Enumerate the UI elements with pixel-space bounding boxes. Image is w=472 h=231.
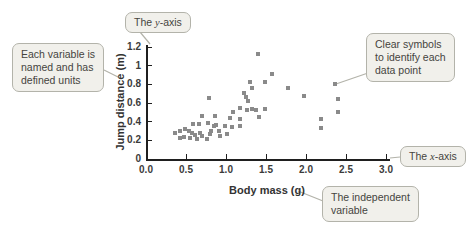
data-point xyxy=(188,136,192,140)
data-point xyxy=(250,86,254,90)
callout-each-variable-line1: Each variable is xyxy=(21,48,95,61)
x-tick-label: 0.5 xyxy=(174,164,198,175)
data-point xyxy=(206,121,210,125)
x-tick-label: 1.5 xyxy=(254,164,278,175)
callout-each-variable: Each variable is named and has defined u… xyxy=(12,43,104,92)
data-point xyxy=(225,132,229,136)
data-point xyxy=(178,129,182,133)
data-point xyxy=(178,136,182,140)
callout-clear-symbols-line1: Clear symbols xyxy=(375,38,446,51)
callout-clear-symbols: Clear symbols to identify each data poin… xyxy=(366,33,455,82)
x-axis-line xyxy=(146,159,390,161)
data-point xyxy=(191,122,195,126)
data-point xyxy=(223,124,227,128)
data-point xyxy=(263,107,267,111)
scatter-plot-figure: 0.00.51.01.52.02.53.000.20.40.60.811.2 J… xyxy=(0,0,472,231)
data-point xyxy=(218,134,222,138)
y-tick xyxy=(147,159,152,160)
data-point xyxy=(200,134,204,138)
callout-independent-line1: The independent xyxy=(331,191,410,204)
data-point xyxy=(248,80,252,84)
data-point xyxy=(254,108,258,112)
data-point xyxy=(173,131,177,135)
data-point xyxy=(217,129,221,133)
data-point xyxy=(213,114,217,118)
data-point xyxy=(209,129,213,133)
data-point xyxy=(238,106,242,110)
callout-y-axis-suffix: -axis xyxy=(160,16,182,28)
data-point xyxy=(302,94,306,98)
data-point xyxy=(238,117,242,121)
y-tick xyxy=(147,140,152,141)
data-point xyxy=(197,122,201,126)
data-point xyxy=(230,125,234,129)
data-point xyxy=(238,124,242,128)
y-tick xyxy=(147,84,152,85)
data-point xyxy=(333,82,337,86)
y-tick xyxy=(147,103,152,104)
data-point xyxy=(228,116,232,120)
callout-x-axis-suffix: -axis xyxy=(435,150,457,162)
callout-y-axis-text: The xyxy=(134,16,155,28)
data-point xyxy=(246,99,250,103)
x-tick-label: 1.0 xyxy=(214,164,238,175)
data-point xyxy=(245,108,249,112)
data-point xyxy=(256,52,260,56)
x-axis-title: Body mass (g) xyxy=(197,184,337,196)
data-point xyxy=(205,137,209,141)
x-tick-label: 2.5 xyxy=(334,164,358,175)
x-tick-label: 0.0 xyxy=(134,164,158,175)
x-tick xyxy=(306,154,307,159)
data-point xyxy=(214,123,218,127)
x-tick xyxy=(346,154,347,159)
data-point xyxy=(286,86,290,90)
leader-clear-symbols-callout xyxy=(336,73,368,84)
callout-independent-variable: The independent variable xyxy=(322,186,419,222)
callout-clear-symbols-line3: data point xyxy=(375,64,446,77)
x-tick xyxy=(266,154,267,159)
y-tick xyxy=(147,121,152,122)
leader-y-axis-callout xyxy=(140,32,150,44)
x-tick-label: 2.0 xyxy=(294,164,318,175)
data-point xyxy=(270,72,274,76)
data-point xyxy=(231,110,235,114)
data-point xyxy=(207,96,211,100)
x-tick xyxy=(186,154,187,159)
x-tick-label: 3.0 xyxy=(374,164,398,175)
data-point xyxy=(336,110,340,114)
data-point xyxy=(200,114,204,118)
y-tick xyxy=(147,65,152,66)
x-tick xyxy=(226,154,227,159)
data-point xyxy=(336,97,340,101)
callout-y-axis: The y-axis xyxy=(125,12,191,33)
callout-x-axis-text: The xyxy=(409,150,430,162)
data-point xyxy=(319,126,323,130)
y-tick xyxy=(147,47,152,48)
data-point xyxy=(257,115,261,119)
data-point xyxy=(195,137,199,141)
data-point xyxy=(263,80,267,84)
data-point xyxy=(319,117,323,121)
callout-each-variable-line3: defined units xyxy=(21,74,95,87)
callout-each-variable-line2: named and has xyxy=(21,61,95,74)
data-point xyxy=(182,135,186,139)
callout-independent-line2: variable xyxy=(331,204,410,217)
data-point xyxy=(242,91,246,95)
callout-x-axis: The x-axis xyxy=(400,146,466,167)
x-tick xyxy=(386,154,387,159)
callout-clear-symbols-line2: to identify each xyxy=(375,51,446,64)
data-point xyxy=(193,133,197,137)
y-axis-title: Jump distance (m) xyxy=(114,37,128,167)
leader-x-axis-callout xyxy=(390,157,400,158)
